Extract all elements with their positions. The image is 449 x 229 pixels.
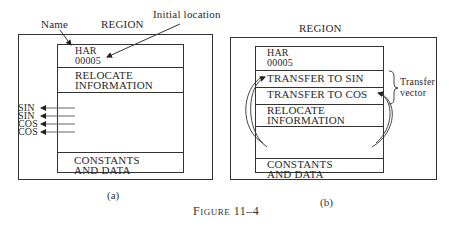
name-pointer-arrow [60, 30, 71, 45]
transfer-vector-brace [389, 71, 398, 104]
sin-call-arrow [251, 77, 267, 147]
initial-location-arrow [107, 24, 180, 57]
diagram-arrows [0, 0, 449, 229]
sin-call-arrow [246, 76, 263, 143]
cos-call-arrow [376, 94, 390, 143]
